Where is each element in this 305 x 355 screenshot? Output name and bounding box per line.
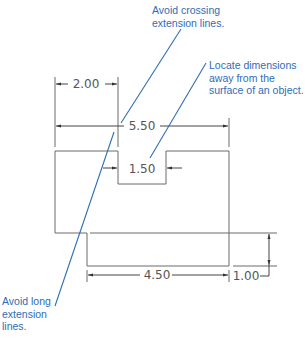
leader-crossing [121, 29, 181, 123]
dimension-1-00 [260, 234, 269, 276]
note-locate-dimensions: Locate dimensions away from the surface … [209, 59, 304, 97]
note-avoid-long: Avoid long extension lines. [2, 295, 51, 333]
dim-text-1-50: 1.50 [129, 162, 156, 176]
leader-long [55, 132, 114, 306]
dim-text-4-50: 4.50 [144, 268, 171, 282]
note-avoid-crossing: Avoid crossing extension lines. [152, 4, 224, 29]
dim-text-1-00: 1.00 [233, 269, 260, 283]
dim-text-5-50: 5.50 [129, 119, 156, 133]
dim-text-2-00: 2.00 [73, 77, 100, 91]
leader-locate [150, 63, 206, 158]
